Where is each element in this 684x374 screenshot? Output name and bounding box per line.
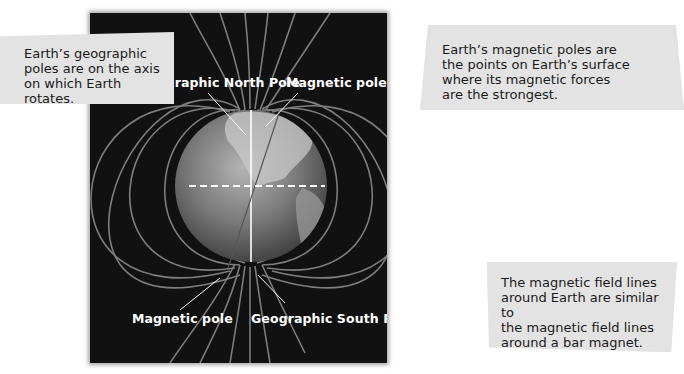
callout-field-lines-text: The magnetic field lines around Earth ar…: [501, 275, 669, 350]
callout-magnetic-poles: Earth’s magnetic poles are the points on…: [420, 25, 684, 110]
callout-magnetic-poles-text: Earth’s magnetic poles are the points on…: [442, 42, 674, 102]
label-magnetic-pole-south: Magnetic pole: [132, 311, 233, 326]
label-geographic-south-pole: Geographic South Pole: [251, 311, 387, 326]
label-magnetic-pole-north: Magnetic pole: [286, 75, 387, 90]
callout-geographic-poles: Earth’s geographic poles are on the axis…: [0, 32, 174, 104]
callout-geographic-poles-text: Earth’s geographic poles are on the axis…: [24, 46, 164, 106]
earth-globe: [175, 110, 327, 268]
callout-field-lines: The magnetic field lines around Earth ar…: [487, 262, 677, 352]
